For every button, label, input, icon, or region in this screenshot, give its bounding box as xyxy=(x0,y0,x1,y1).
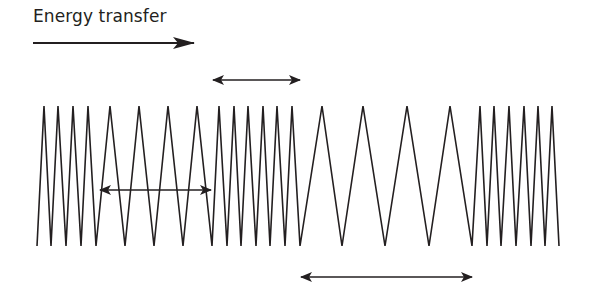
longitudinal-wave-diagram: Energy transfer xyxy=(0,0,597,289)
wavelength-arrows xyxy=(100,80,472,277)
longitudinal-wave-zigzag xyxy=(37,106,559,246)
diagram-drawing xyxy=(0,0,597,289)
